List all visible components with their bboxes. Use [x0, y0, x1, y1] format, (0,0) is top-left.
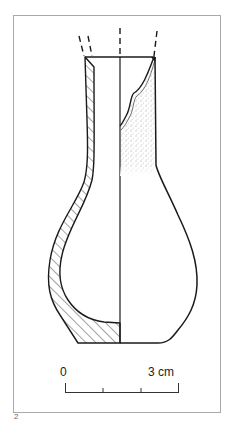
rim-extension-dashes	[79, 28, 157, 56]
scale-end-label: 3 cm	[148, 365, 174, 379]
section-wall-hatched	[48, 57, 120, 343]
vessel-drawing	[0, 0, 228, 426]
figure-frame	[14, 16, 221, 413]
figure-number: 2	[14, 412, 18, 421]
scale-start-label: 0	[60, 365, 67, 379]
scale-bar	[65, 383, 179, 393]
